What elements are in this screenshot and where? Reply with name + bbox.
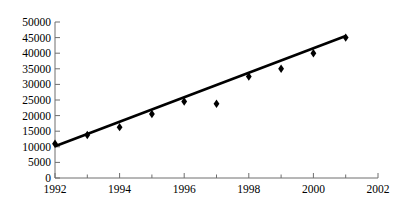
x-tick-label: 2000 bbox=[302, 183, 325, 195]
x-tick-label: 1996 bbox=[173, 183, 196, 195]
chart-container: 0 5000 10000 15000 20000 25000 30000 350… bbox=[0, 0, 410, 219]
trend-line bbox=[55, 36, 346, 146]
x-axis-ticks bbox=[55, 173, 378, 178]
x-axis-tick-labels: 1992 1994 1996 1998 2000 2002 bbox=[44, 183, 390, 195]
scatter-chart: 0 5000 10000 15000 20000 25000 30000 350… bbox=[0, 0, 410, 219]
y-tick-label: 50000 bbox=[22, 16, 51, 28]
y-tick-label: 10000 bbox=[22, 141, 51, 153]
data-point-marker bbox=[214, 100, 220, 108]
y-axis-ticks bbox=[55, 22, 60, 178]
y-tick-label: 35000 bbox=[22, 63, 51, 75]
y-tick-label: 40000 bbox=[22, 47, 51, 59]
y-tick-label: 20000 bbox=[22, 110, 51, 122]
x-tick-label: 2002 bbox=[367, 183, 390, 195]
y-axis-tick-labels: 0 5000 10000 15000 20000 25000 30000 350… bbox=[22, 16, 51, 184]
x-tick-label: 1992 bbox=[44, 183, 67, 195]
y-tick-label: 25000 bbox=[22, 94, 51, 106]
y-tick-label: 5000 bbox=[28, 156, 51, 168]
chart-series-layer bbox=[52, 33, 349, 147]
y-tick-label: 30000 bbox=[22, 78, 51, 90]
y-tick-label: 45000 bbox=[22, 32, 51, 44]
data-point-marker bbox=[117, 123, 123, 131]
y-tick-label: 15000 bbox=[22, 125, 51, 137]
data-point-marker bbox=[343, 33, 349, 41]
x-tick-label: 1998 bbox=[237, 183, 260, 195]
x-tick-label: 1994 bbox=[108, 183, 131, 195]
data-point-marker bbox=[278, 65, 284, 73]
